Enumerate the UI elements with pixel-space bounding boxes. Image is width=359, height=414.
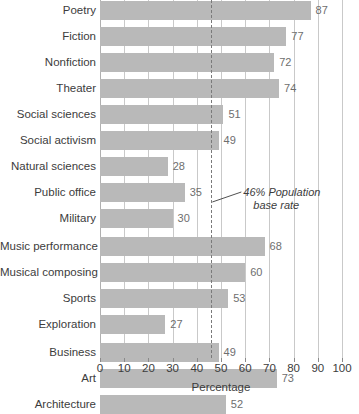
x-axis: 0102030405060708090100 xyxy=(100,358,342,378)
category-label-military: Military xyxy=(0,209,96,228)
gridline-100 xyxy=(342,0,343,358)
plot-area: 87777274514928353068605327497352 46% Pop… xyxy=(100,0,342,358)
reference-line-leader xyxy=(100,0,342,358)
bar-value-label: 52 xyxy=(231,397,243,412)
category-label-nonfiction: Nonfiction xyxy=(0,53,96,72)
bar-row: 52 xyxy=(100,395,342,414)
category-axis-labels: PoetryFictionNonfictionTheaterSocial sci… xyxy=(0,0,96,358)
category-label-exploration: Exploration xyxy=(0,315,96,334)
category-label-musical-composing: Musical composing xyxy=(0,263,96,282)
category-label-business: Business xyxy=(0,343,96,362)
reference-annotation-line-2: base rate xyxy=(253,199,299,212)
category-label-fiction: Fiction xyxy=(0,27,96,46)
reference-annotation-line-1: 46% Population xyxy=(243,186,320,199)
category-label-art: Art xyxy=(0,369,96,388)
category-label-social-activism: Social activism xyxy=(0,131,96,150)
category-label-public-office: Public office xyxy=(0,183,96,202)
category-label-poetry: Poetry xyxy=(0,1,96,20)
bar-architecture xyxy=(100,395,226,414)
category-label-architecture: Architecture xyxy=(0,395,96,414)
category-label-natural-sciences: Natural sciences xyxy=(0,157,96,176)
category-label-sports: Sports xyxy=(0,289,96,308)
category-label-music-performance: Music performance xyxy=(0,237,96,256)
x-axis-title: Percentage xyxy=(100,381,342,393)
category-label-social-sciences: Social sciences xyxy=(0,105,96,124)
category-label-theater: Theater xyxy=(0,79,96,98)
x-tick-label-100: 100 xyxy=(327,362,357,374)
